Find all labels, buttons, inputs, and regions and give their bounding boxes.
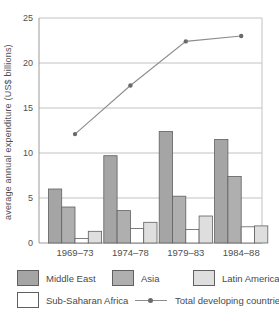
plot-area: 05101520251969–731974–781979–831984–88 xyxy=(0,0,279,262)
bar xyxy=(241,227,254,243)
legend-label: Total developing countries xyxy=(175,295,279,306)
total-line-marker xyxy=(73,132,77,136)
bar xyxy=(159,131,172,243)
bar xyxy=(199,216,212,243)
legend-label: Latin America xyxy=(222,273,279,284)
bar xyxy=(88,231,101,243)
y-tick-label: 15 xyxy=(23,103,33,113)
legend-item-latin-america: Latin America xyxy=(193,270,279,286)
y-tick-label: 0 xyxy=(28,238,33,248)
bar xyxy=(228,176,241,243)
y-tick-label: 5 xyxy=(28,193,33,203)
x-category-label: 1974–78 xyxy=(112,247,149,258)
legend-item-total-developing-countries: Total developing countries xyxy=(135,292,279,308)
legend-label: Middle East xyxy=(46,273,96,284)
bar xyxy=(173,196,186,243)
total-line-sample-icon xyxy=(135,292,167,308)
sub-saharan-africa-swatch xyxy=(17,292,39,308)
military-expenditure-chart: average annual expenditure (US$ billions… xyxy=(0,0,279,325)
latin-america-swatch xyxy=(193,270,215,286)
x-category-label: 1979–83 xyxy=(167,247,204,258)
bar xyxy=(48,189,61,243)
total-line-marker xyxy=(239,34,243,38)
y-axis-label: average annual expenditure (US$ billions… xyxy=(1,18,14,246)
legend-label: Asia xyxy=(141,273,159,284)
total-line-marker xyxy=(128,83,132,87)
legend-item-sub-saharan-africa: Sub-Saharan Africa xyxy=(17,292,128,308)
bar xyxy=(215,140,228,244)
legend-item-asia: Asia xyxy=(112,270,159,286)
bar xyxy=(117,211,130,243)
x-category-label: 1984–88 xyxy=(223,247,260,258)
legend-item-middle-east: Middle East xyxy=(17,270,96,286)
total-line xyxy=(75,36,241,134)
bar xyxy=(62,207,75,243)
legend-label: Sub-Saharan Africa xyxy=(46,295,128,306)
y-tick-label: 20 xyxy=(23,58,33,68)
bar xyxy=(130,229,143,243)
bar xyxy=(75,239,88,244)
asia-swatch xyxy=(112,270,134,286)
bar xyxy=(186,230,199,244)
y-tick-label: 25 xyxy=(23,13,33,23)
middle-east-swatch xyxy=(17,270,39,286)
x-category-label: 1969–73 xyxy=(57,247,94,258)
bar xyxy=(144,222,157,243)
bar xyxy=(255,226,268,243)
y-tick-label: 10 xyxy=(23,148,33,158)
total-line-marker xyxy=(184,39,188,43)
bar xyxy=(104,156,117,243)
